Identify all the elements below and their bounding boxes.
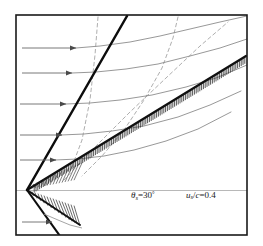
shock-angle-label: θs=30°	[131, 190, 155, 201]
figure-container: θs=30° us/c=0.4	[0, 0, 263, 246]
wedge-flow-diagram	[0, 0, 263, 246]
velocity-ratio-label: us/c=0.4	[186, 190, 216, 200]
